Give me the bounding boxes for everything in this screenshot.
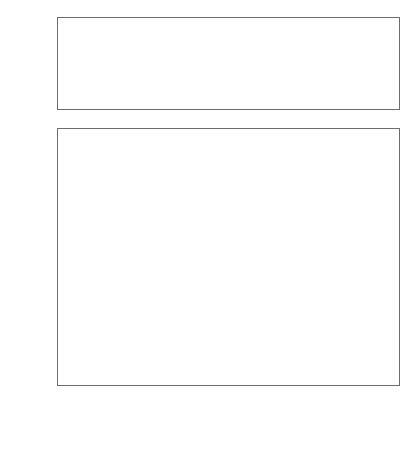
top-panel-plot-area [57, 17, 400, 110]
figure-container [0, 0, 410, 450]
bottom-panel-plot-area [57, 128, 400, 386]
